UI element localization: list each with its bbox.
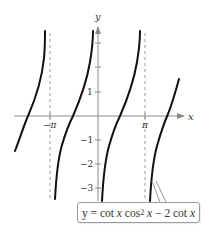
y-tick-label-neg2: −2 bbox=[80, 159, 93, 169]
x-tick-label-neg-pi: −π bbox=[43, 120, 58, 130]
y-tick-label-1: 1 bbox=[87, 87, 93, 97]
x-tick-label-pi: π bbox=[141, 120, 149, 130]
curve-branch-1 bbox=[15, 31, 45, 151]
eq-part2: cos bbox=[122, 207, 140, 219]
eq-part1: y = cot bbox=[82, 207, 117, 219]
x-axis-label: x bbox=[188, 111, 194, 122]
eq-part4: − 2 cot bbox=[152, 207, 190, 219]
y-tick-label-neg1: −1 bbox=[80, 135, 93, 145]
curve-branch-4 bbox=[150, 79, 179, 201]
curve-branch-2 bbox=[55, 31, 93, 199]
eq-x3: x bbox=[190, 207, 195, 219]
y-tick-label-neg3: −3 bbox=[80, 183, 94, 193]
equation-label: y = cot x cos2 x − 2 cot x bbox=[77, 202, 200, 223]
y-axis-label: y bbox=[94, 11, 101, 22]
annotation-leader bbox=[152, 181, 166, 202]
